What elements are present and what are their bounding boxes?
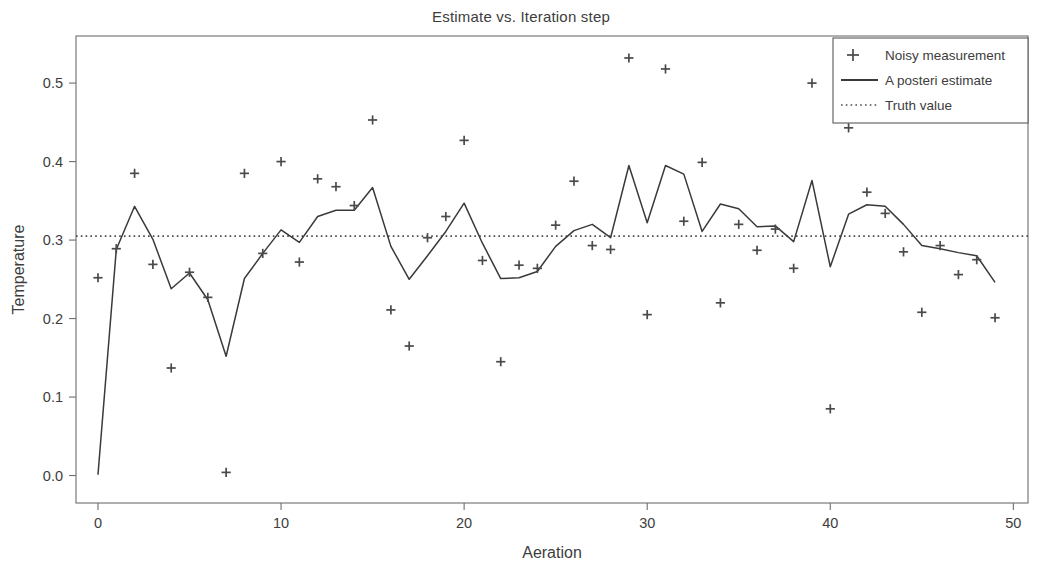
axis-labels: AerationTemperature (10, 224, 582, 561)
measurement-point (478, 256, 487, 265)
measurement-point (588, 241, 597, 250)
estimate-line (98, 166, 995, 475)
y-tick-label: 0.3 (43, 232, 63, 248)
measurement-point (844, 123, 853, 132)
legend-entry-label: Truth value (885, 98, 952, 113)
measurement-point (222, 468, 231, 477)
chart-legend: Noisy measurementA posteri estimateTruth… (833, 38, 1028, 123)
measurement-point (551, 221, 560, 230)
measurement-point (752, 246, 761, 255)
measurement-point (826, 404, 835, 413)
measurement-point (917, 308, 926, 317)
measurement-point (441, 212, 450, 221)
measurement-point (789, 264, 798, 273)
measurement-point (643, 310, 652, 319)
measurement-point (331, 182, 340, 191)
y-tick-label: 0.0 (43, 468, 63, 484)
x-tick-label: 30 (639, 515, 655, 531)
measurement-point (313, 174, 322, 183)
measurement-point (295, 257, 304, 266)
measurement-point (862, 188, 871, 197)
y-tick-label: 0.4 (43, 154, 63, 170)
measurement-point (405, 341, 414, 350)
measurement-point (167, 363, 176, 372)
x-tick-label: 50 (1005, 515, 1021, 531)
x-axis-ticks: 01020304050 (94, 503, 1021, 531)
measurement-point (954, 270, 963, 279)
measurement-point (716, 298, 725, 307)
y-axis-ticks: 0.00.10.20.30.40.5 (43, 75, 76, 483)
legend-entry-label: A posteri estimate (885, 73, 992, 88)
x-tick-label: 40 (822, 515, 838, 531)
measurement-point (240, 169, 249, 178)
measurement-point (624, 53, 633, 62)
measurement-point (972, 255, 981, 264)
measurement-point (460, 136, 469, 145)
measurement-point (496, 357, 505, 366)
x-tick-label: 20 (456, 515, 472, 531)
measurement-point (386, 305, 395, 314)
measurement-point (148, 260, 157, 269)
measurement-point (569, 177, 578, 186)
legend-entry-label: Noisy measurement (885, 48, 1005, 63)
measurement-point (368, 115, 377, 124)
y-tick-label: 0.5 (43, 75, 63, 91)
measurement-point (990, 313, 999, 322)
x-axis-label: Aeration (522, 544, 582, 561)
estimate-polyline (98, 166, 995, 475)
y-axis-label: Temperature (10, 224, 27, 314)
measurement-point (807, 78, 816, 87)
measurement-point (276, 157, 285, 166)
plot-area: 01020304050 0.00.10.20.30.40.5 AerationT… (0, 0, 1042, 577)
measurement-point (130, 169, 139, 178)
chart-figure: Estimate vs. Iteration step 01020304050 … (0, 0, 1042, 577)
measurement-point (899, 247, 908, 256)
measurement-point (679, 217, 688, 226)
x-tick-label: 10 (273, 515, 289, 531)
measurement-point (698, 158, 707, 167)
x-tick-label: 0 (94, 515, 102, 531)
y-tick-label: 0.1 (43, 389, 63, 405)
measurement-point (423, 233, 432, 242)
measurement-point (661, 64, 670, 73)
measurement-point (533, 264, 542, 273)
measurement-point (93, 273, 102, 282)
measurement-point (606, 245, 615, 254)
y-tick-label: 0.2 (43, 311, 63, 327)
measurement-point (734, 220, 743, 229)
measurement-point (350, 201, 359, 210)
measurement-point (514, 261, 523, 270)
measurement-point (112, 244, 121, 253)
